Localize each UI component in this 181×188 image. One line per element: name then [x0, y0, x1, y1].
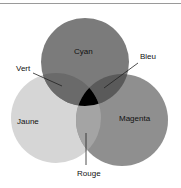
label-bleu: Bleu [140, 52, 156, 61]
label-magenta: Magenta [119, 114, 151, 123]
label-rouge: Rouge [77, 169, 101, 178]
label-cyan: Cyan [74, 47, 93, 56]
venn-diagram: Cyan Bleu Vert Jaune Magenta Rouge [0, 0, 181, 188]
label-jaune: Jaune [17, 117, 39, 126]
label-vert: Vert [16, 64, 31, 73]
